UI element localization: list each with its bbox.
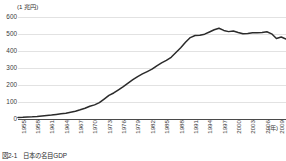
x-axis-tick-label: 2003: [250, 120, 256, 134]
figure-caption: 図2-1 日本の名目GDP: [2, 151, 284, 161]
y-axis-tick-label: 400: [1, 48, 17, 54]
y-axis-tick-label: 200: [1, 82, 17, 88]
x-axis-tick-label: 1964: [64, 120, 70, 134]
x-axis-tick-label: 1982: [150, 120, 156, 134]
y-axis-tick-label: 500: [1, 31, 17, 37]
x-axis-tick-label: 1976: [121, 120, 127, 134]
x-axis-tick-label: 1994: [207, 120, 213, 134]
x-axis-tick-label: 1988: [179, 120, 185, 134]
x-axis-tick-label: 1985: [164, 120, 170, 134]
y-axis-unit-label: (1 兆円): [17, 2, 38, 11]
x-axis-unit-label: (年): [268, 123, 278, 132]
x-axis-tick-label: 1961: [49, 120, 55, 134]
x-axis-tick-label: 1997: [222, 120, 228, 134]
y-axis-tick-label: 600: [1, 14, 17, 20]
x-axis-tick-label: 1967: [78, 120, 84, 134]
x-axis-tick-label: 1979: [135, 120, 141, 134]
y-axis-tick-labels: 0100200300400500600: [0, 17, 17, 119]
x-axis-tick-label: 1958: [35, 120, 41, 134]
x-axis-tick-labels: 1955195819611964196719701973197619791982…: [18, 120, 286, 142]
y-axis-tick-label: 300: [1, 65, 17, 71]
x-axis-tick-label: 1955: [21, 120, 27, 134]
gdp-line-series: [18, 17, 286, 119]
y-axis-tick-label: 0: [1, 116, 17, 122]
x-axis-tick-label: 2009: [279, 120, 285, 134]
chart-figure: (1 兆円) 0100200300400500600 1955195819611…: [0, 0, 286, 161]
x-axis-tick-label: 1970: [92, 120, 98, 134]
y-axis-tick-label: 100: [1, 99, 17, 105]
x-axis-tick-label: 1973: [107, 120, 113, 134]
x-axis-tick-label: 2000: [236, 120, 242, 134]
x-axis-tick-label: 1991: [193, 120, 199, 134]
plot-area: [18, 17, 286, 119]
